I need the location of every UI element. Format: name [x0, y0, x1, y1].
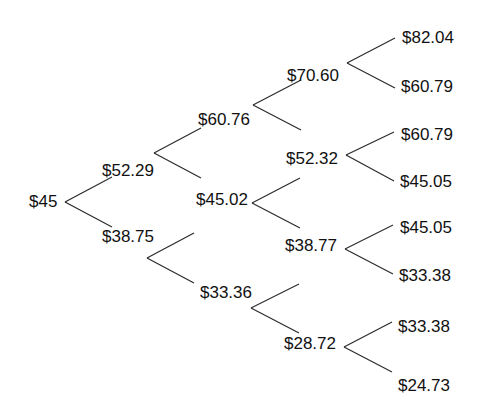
node-step4-a: $82.04	[402, 28, 454, 48]
node-step4-b: $60.79	[401, 77, 453, 97]
tree-edge	[147, 258, 194, 283]
tree-edge	[252, 203, 300, 228]
tree-edge	[154, 128, 201, 153]
tree-edge	[65, 202, 112, 227]
node-step4-g: $33.38	[398, 317, 450, 337]
tree-edge	[253, 105, 301, 130]
node-step1-up: $52.29	[102, 161, 154, 181]
tree-edge	[347, 63, 395, 88]
tree-edge	[147, 233, 194, 258]
tree-edge	[344, 322, 392, 347]
node-step4-e: $45.05	[400, 218, 452, 238]
node-step3-uuu: $70.60	[287, 66, 339, 86]
tree-edge	[251, 308, 299, 333]
tree-edge	[251, 284, 299, 308]
node-step1-down: $38.75	[102, 227, 154, 247]
node-step4-f: $33.38	[399, 266, 451, 286]
tree-edge	[345, 249, 393, 274]
tree-edge	[347, 38, 395, 63]
node-step2-ud: $45.02	[196, 190, 248, 210]
node-step4-h: $24.73	[398, 376, 450, 396]
node-step2-dd: $33.36	[200, 283, 252, 303]
node-step3-udd: $38.77	[285, 236, 337, 256]
node-step3-uud: $52.32	[286, 149, 338, 169]
node-step3-ddd: $28.72	[284, 334, 336, 354]
tree-edge	[344, 347, 392, 372]
node-root: $45	[29, 192, 57, 212]
tree-edge	[154, 153, 201, 178]
tree-edge	[346, 155, 394, 181]
tree-edge	[345, 225, 393, 249]
node-step4-d: $45.05	[400, 172, 452, 192]
tree-edge	[252, 178, 300, 203]
tree-edge	[346, 132, 394, 155]
node-step2-uu: $60.76	[198, 110, 250, 130]
node-step4-c: $60.79	[401, 125, 453, 145]
